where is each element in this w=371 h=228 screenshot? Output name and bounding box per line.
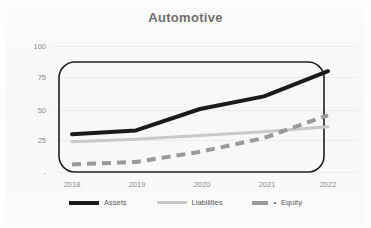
- chart-title: Automotive: [0, 10, 371, 25]
- line-solid-gray-icon: [157, 201, 187, 204]
- plot-frame-rounded-rect: [59, 62, 324, 172]
- x-axis: 2018 2019 2020 2021 2022: [14, 180, 359, 194]
- chart-page: Automotive 100 75 50 25 - 2018 2019 2020…: [0, 0, 371, 228]
- plot-area: 100 75 50 25 -: [14, 40, 359, 180]
- legend-label-liabilities: Liabilities: [192, 198, 223, 207]
- series-line-assets: [72, 71, 328, 134]
- x-tick-2021: 2021: [259, 180, 276, 189]
- chart-legend: Assets Liabilities • Equity: [0, 198, 371, 207]
- x-tick-2018: 2018: [64, 180, 81, 189]
- x-tick-2019: 2019: [129, 180, 146, 189]
- x-tick-2022: 2022: [320, 180, 337, 189]
- series-line-liabilities: [72, 127, 328, 142]
- legend-item-equity[interactable]: • Equity: [252, 198, 302, 207]
- series-canvas: [14, 40, 359, 180]
- line-solid-black-icon: [69, 201, 99, 205]
- legend-item-assets[interactable]: Assets: [69, 198, 127, 207]
- legend-label-assets: Assets: [104, 198, 127, 207]
- legend-equity-prefix-mark: •: [273, 198, 276, 207]
- legend-item-liabilities[interactable]: Liabilities: [157, 198, 223, 207]
- x-tick-2020: 2020: [194, 180, 211, 189]
- line-dashed-gray-icon: [252, 201, 268, 205]
- legend-label-equity: Equity: [281, 198, 302, 207]
